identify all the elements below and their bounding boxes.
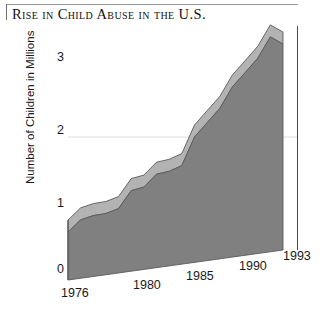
x-tick-label-1980: 1980: [133, 278, 161, 292]
y-tick-label-1: 1: [50, 196, 64, 210]
chart-figure: Rise in Child Abuse in the U.S. 0 1 2 3 …: [0, 0, 331, 318]
x-tick-label-1985: 1985: [186, 269, 214, 283]
x-tick-label-1990: 1990: [239, 259, 267, 273]
y-axis-label: Number of Children in Millions: [24, 64, 36, 184]
x-tick-label-1993: 1993: [283, 249, 311, 263]
y-tick-label-2: 2: [50, 123, 64, 137]
x-tick-label-1976: 1976: [61, 286, 89, 300]
y-tick-label-3: 3: [50, 50, 64, 64]
y-tick-label-0: 0: [50, 262, 64, 276]
